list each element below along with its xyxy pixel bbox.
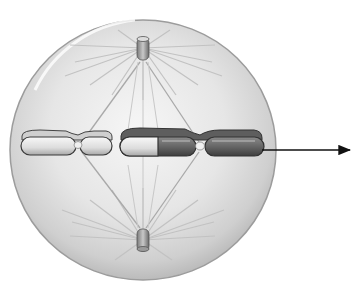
chromosome-right — [120, 128, 264, 156]
centriole-top — [137, 37, 149, 61]
centromere-right — [196, 142, 205, 150]
diagram-canvas — [0, 0, 362, 282]
metaphase-diagram — [0, 0, 362, 282]
centromere-left — [74, 142, 82, 149]
chromosome-left — [21, 130, 112, 155]
centriole-bottom — [137, 229, 149, 252]
chromosome-light-segment — [120, 137, 158, 156]
